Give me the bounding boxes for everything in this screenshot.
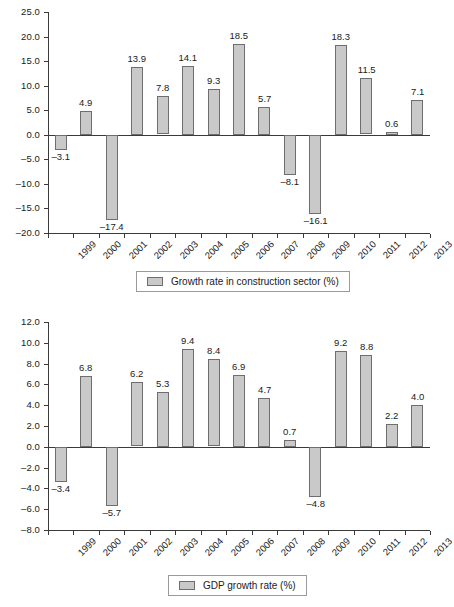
x-category-label: 2002 xyxy=(152,536,174,558)
y-tick-label: 8.0 xyxy=(0,359,40,369)
x-tick-mark xyxy=(303,531,304,535)
x-tick-mark xyxy=(328,234,329,238)
x-tick-mark xyxy=(48,531,49,535)
bar-value-label: 9.3 xyxy=(194,76,233,86)
bar xyxy=(335,351,347,447)
chart-construction-growth: 25.020.015.010.05.00.0–5.0–10.0–15.0–20.… xyxy=(0,0,436,300)
y-tick-mark xyxy=(44,12,48,13)
bar-value-label: 8.8 xyxy=(347,342,386,352)
bar xyxy=(131,67,143,135)
y-tick-label: –20.0 xyxy=(0,228,40,238)
y-tick-mark xyxy=(44,86,48,87)
y-tick-label: 25.0 xyxy=(0,7,40,17)
bar-value-label: –3.1 xyxy=(41,152,80,162)
bar xyxy=(208,359,220,446)
x-tick-mark xyxy=(405,234,406,238)
bar xyxy=(182,66,194,135)
bar-value-label: 11.5 xyxy=(347,65,386,75)
bar-value-label: 4.9 xyxy=(66,98,105,108)
x-tick-mark xyxy=(175,234,176,238)
x-category-label: 2013 xyxy=(432,239,454,261)
bar-value-label: 5.7 xyxy=(245,94,284,104)
y-tick-label: 15.0 xyxy=(0,56,40,66)
bar xyxy=(233,375,245,447)
bar xyxy=(55,135,67,150)
bar-value-label: –5.7 xyxy=(92,508,131,518)
x-tick-mark xyxy=(430,531,431,535)
x-tick-mark xyxy=(252,234,253,238)
legend: GDP growth rate (%) xyxy=(168,575,307,596)
bar xyxy=(106,447,118,506)
bar-value-label: 14.1 xyxy=(168,53,207,63)
bar-value-label: 6.8 xyxy=(66,363,105,373)
y-tick-label: –15.0 xyxy=(0,203,40,213)
bar-value-label: 13.9 xyxy=(117,54,156,64)
x-tick-mark xyxy=(405,531,406,535)
y-tick-mark xyxy=(44,509,48,510)
bar-value-label: 9.4 xyxy=(168,336,207,346)
x-category-label: 2008 xyxy=(305,239,327,261)
y-tick-mark xyxy=(44,343,48,344)
x-category-label: 2009 xyxy=(330,239,352,261)
x-category-label: 2000 xyxy=(101,239,123,261)
legend: Growth rate in construction sector (%) xyxy=(136,271,350,292)
bar-value-label: 0.7 xyxy=(270,427,309,437)
bar xyxy=(309,447,321,497)
bar xyxy=(182,349,194,447)
x-category-label: 2000 xyxy=(101,536,123,558)
bar xyxy=(386,132,398,135)
x-tick-mark xyxy=(379,531,380,535)
bar xyxy=(284,135,296,175)
y-tick-mark xyxy=(44,208,48,209)
y-tick-mark xyxy=(44,110,48,111)
y-tick-mark xyxy=(44,384,48,385)
x-category-label: 2003 xyxy=(178,239,200,261)
y-tick-label: 10.0 xyxy=(0,81,40,91)
x-tick-mark xyxy=(328,531,329,535)
x-category-label: 2007 xyxy=(279,239,301,261)
x-tick-mark xyxy=(150,531,151,535)
bar-value-label: 18.5 xyxy=(219,31,258,41)
x-category-label: 2012 xyxy=(407,536,429,558)
y-tick-label: –10.0 xyxy=(0,179,40,189)
bar xyxy=(208,89,220,135)
bar xyxy=(106,135,118,220)
bar-value-label: 4.0 xyxy=(398,392,437,402)
x-axis-bottom-line xyxy=(48,530,430,531)
x-tick-mark xyxy=(73,531,74,535)
x-category-label: 2007 xyxy=(279,536,301,558)
x-category-label: 2012 xyxy=(407,239,429,261)
x-category-label: 2006 xyxy=(254,536,276,558)
y-tick-mark xyxy=(44,322,48,323)
x-tick-mark xyxy=(252,531,253,535)
x-tick-mark xyxy=(226,531,227,535)
x-tick-mark xyxy=(277,234,278,238)
y-tick-mark xyxy=(44,405,48,406)
legend-label: GDP growth rate (%) xyxy=(203,580,296,591)
y-tick-mark xyxy=(44,447,48,448)
bar xyxy=(309,135,321,214)
bar-value-label: –4.8 xyxy=(296,499,335,509)
x-category-label: 2001 xyxy=(127,239,149,261)
x-category-label: 2004 xyxy=(203,536,225,558)
bar-value-label: –17.4 xyxy=(92,222,131,232)
x-category-label: 2006 xyxy=(254,239,276,261)
bar xyxy=(80,111,92,135)
bar xyxy=(258,398,270,447)
bar xyxy=(360,355,372,447)
y-tick-label: –2.0 xyxy=(0,463,40,473)
x-category-label: 2002 xyxy=(152,239,174,261)
bar xyxy=(157,392,169,447)
y-tick-mark xyxy=(44,426,48,427)
y-tick-label: –4.0 xyxy=(0,483,40,493)
x-tick-mark xyxy=(226,234,227,238)
x-tick-mark xyxy=(354,531,355,535)
x-category-label: 2005 xyxy=(229,239,251,261)
y-axis-line xyxy=(48,12,49,233)
x-tick-mark xyxy=(201,531,202,535)
y-tick-label: –5.0 xyxy=(0,154,40,164)
x-tick-mark xyxy=(354,234,355,238)
bar-value-label: 7.1 xyxy=(398,87,437,97)
y-tick-mark xyxy=(44,37,48,38)
bar-value-label: 6.2 xyxy=(117,369,156,379)
